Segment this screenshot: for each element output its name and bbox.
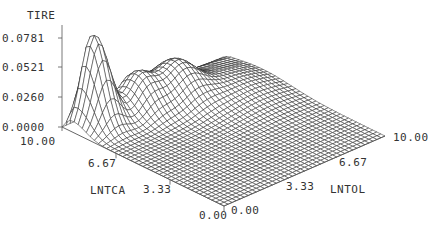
x-axis-label: LNTCA — [90, 185, 126, 196]
y-tick-label: 3.33 — [286, 181, 315, 192]
z-tick-label: 0.0000 — [2, 122, 45, 133]
y-tick-label: 6.67 — [339, 157, 368, 168]
x-tick-label: 3.33 — [143, 184, 172, 195]
z-tick-label: 0.0260 — [2, 92, 45, 103]
y-tick-label: 10.00 — [393, 132, 429, 143]
x-tick-label: 0.00 — [199, 210, 228, 221]
z-tick-label: 0.0781 — [2, 33, 45, 44]
wireframe-surface — [62, 36, 385, 207]
y-tick-label: 0.00 — [231, 205, 260, 216]
surface-plot — [0, 0, 438, 232]
z-axis-label: TIRE — [27, 10, 56, 21]
y-axis-label: LNTOL — [330, 184, 366, 195]
x-tick-label: 6.67 — [88, 158, 117, 169]
x-tick-label: 10.00 — [20, 136, 56, 147]
z-tick-label: 0.0521 — [2, 62, 45, 73]
